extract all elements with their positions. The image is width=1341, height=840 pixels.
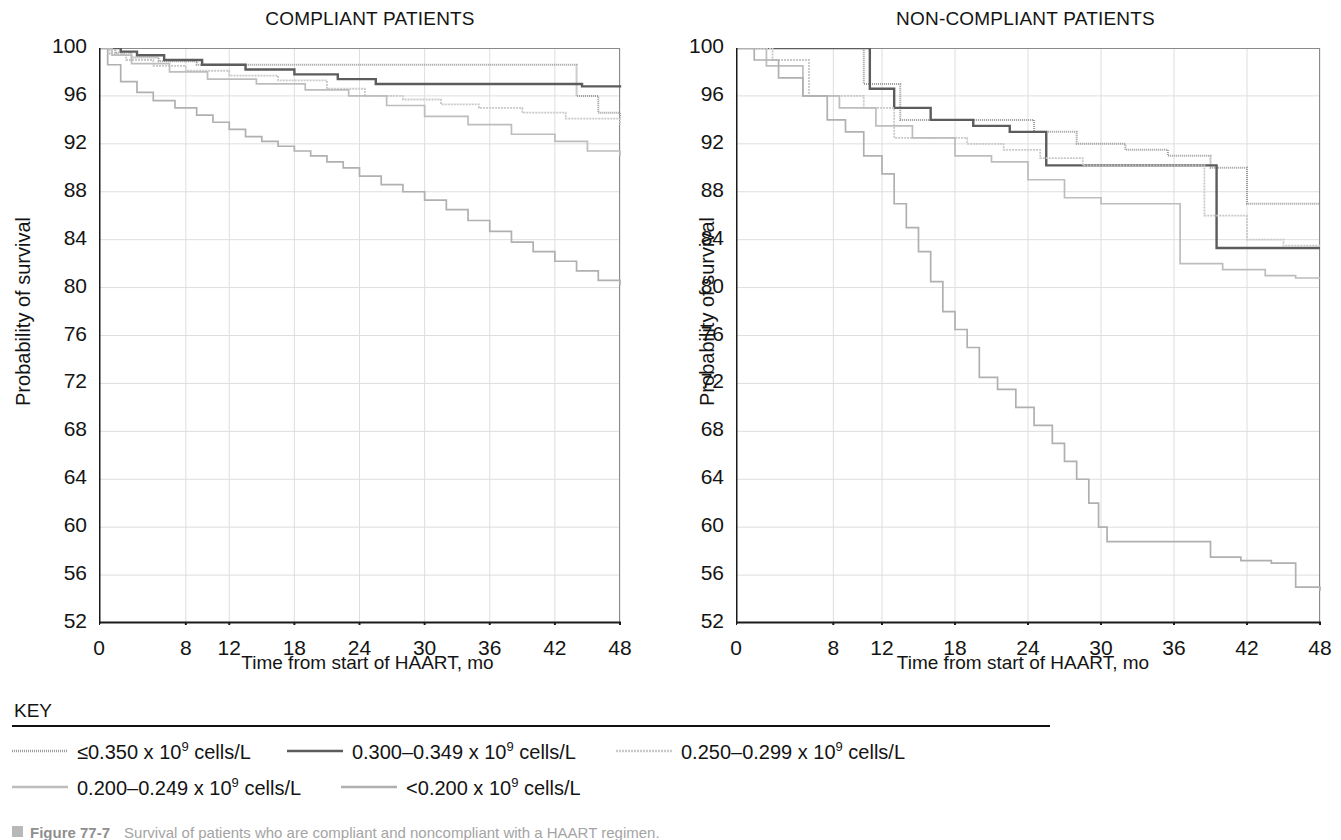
legend-title: KEY — [14, 700, 1072, 722]
y-tick-label: 96 — [41, 82, 87, 106]
legend-label: 0.250–0.299 x 109 cells/L — [681, 739, 905, 764]
y-tick-label: 56 — [41, 561, 87, 585]
chart-panel-compliant: COMPLIANT PATIENTS Probability of surviv… — [0, 0, 680, 700]
caption-figure-number: Figure 77-7 — [30, 824, 110, 840]
legend-line-swatch — [616, 744, 672, 758]
figure-caption: Figure 77-7 Survival of patients who are… — [12, 824, 660, 840]
legend-exponent: 9 — [511, 775, 518, 790]
legend-label: 0.300–0.349 x 109 cells/L — [352, 739, 576, 764]
plot-area-noncompliant: 5256606468727680848892961000812182430364… — [736, 48, 1322, 625]
chart-title-noncompliant: NON-COMPLIANT PATIENTS — [670, 8, 1341, 30]
caption-bullet-icon — [12, 826, 23, 837]
y-tick-label: 52 — [678, 609, 724, 633]
y-tick-label: 64 — [41, 465, 87, 489]
legend-line-swatch — [341, 780, 397, 794]
y-tick-label: 64 — [678, 465, 724, 489]
y-tick-label: 72 — [678, 369, 724, 393]
y-tick-label: 92 — [678, 130, 724, 154]
legend-entry: <0.200 x 109 cells/L — [341, 775, 581, 800]
y-tick-label: 60 — [41, 513, 87, 537]
y-tick-label: 56 — [678, 561, 724, 585]
legend-line-swatch — [287, 744, 343, 758]
legend-label: ≤0.350 x 109 cells/L — [77, 739, 251, 764]
legend-row-2: 0.200–0.249 x 109 cells/L<0.200 x 109 ce… — [12, 769, 1072, 805]
y-tick-label: 84 — [678, 226, 724, 250]
legend-exponent: 9 — [836, 739, 843, 754]
legend-swatch — [287, 744, 343, 758]
y-tick-label: 100 — [41, 34, 87, 58]
caption-body: Survival of patients who are compliant a… — [124, 824, 660, 840]
legend-divider — [12, 725, 1050, 727]
legend-exponent: 9 — [232, 775, 239, 790]
legend-row-1: ≤0.350 x 109 cells/L0.300–0.349 x 109 ce… — [12, 733, 1072, 769]
legend-key: KEY ≤0.350 x 109 cells/L0.300–0.349 x 10… — [12, 700, 1072, 805]
y-tick-label: 80 — [41, 274, 87, 298]
y-tick-label: 88 — [678, 178, 724, 202]
plot-area-compliant: 5256606468727680848892961000812182430364… — [99, 48, 622, 625]
y-tick-label: 68 — [41, 417, 87, 441]
legend-line-swatch — [12, 744, 68, 758]
legend-exponent: 9 — [506, 739, 513, 754]
legend-exponent: 9 — [181, 739, 188, 754]
y-axis-label-left: Probability of survival — [12, 147, 35, 477]
legend-entry: 0.250–0.299 x 109 cells/L — [616, 739, 905, 764]
legend-line-swatch — [12, 780, 68, 794]
chart-panel-noncompliant: NON-COMPLIANT PATIENTS Probability of su… — [670, 0, 1341, 700]
legend-swatch — [616, 744, 672, 758]
y-tick-label: 100 — [678, 34, 724, 58]
legend-entry: 0.300–0.349 x 109 cells/L — [287, 739, 576, 764]
chart-title-compliant: COMPLIANT PATIENTS — [0, 8, 680, 30]
y-tick-label: 60 — [678, 513, 724, 537]
y-tick-label: 68 — [678, 417, 724, 441]
y-tick-label: 96 — [678, 82, 724, 106]
x-axis-label-left: Time from start of HAART, mo — [0, 652, 680, 674]
y-tick-label: 80 — [678, 274, 724, 298]
legend-label: 0.200–0.249 x 109 cells/L — [77, 775, 301, 800]
legend-entry: ≤0.350 x 109 cells/L — [12, 739, 251, 764]
y-tick-label: 76 — [678, 322, 724, 346]
legend-swatch — [341, 780, 397, 794]
y-tick-label: 84 — [41, 226, 87, 250]
x-axis-label-right: Time from start of HAART, mo — [670, 652, 1341, 674]
figure-root: COMPLIANT PATIENTS Probability of surviv… — [0, 0, 1341, 840]
y-tick-label: 52 — [41, 609, 87, 633]
legend-label: <0.200 x 109 cells/L — [406, 775, 581, 800]
y-tick-label: 72 — [41, 369, 87, 393]
y-tick-label: 92 — [41, 130, 87, 154]
legend-swatch — [12, 780, 68, 794]
legend-swatch — [12, 744, 68, 758]
y-tick-label: 88 — [41, 178, 87, 202]
y-tick-label: 76 — [41, 322, 87, 346]
legend-entry: 0.200–0.249 x 109 cells/L — [12, 775, 301, 800]
